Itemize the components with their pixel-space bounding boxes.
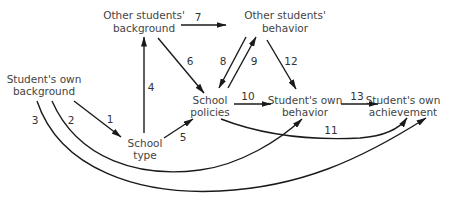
node-label-line1: Student's own bbox=[7, 73, 82, 85]
edge-6: 6 bbox=[158, 38, 204, 93]
edge-2-line bbox=[52, 101, 302, 172]
edge-11: 11 bbox=[221, 118, 407, 139]
node-label-line1: School bbox=[193, 94, 228, 106]
node-label-line2: background bbox=[13, 85, 75, 97]
edge-9-label: 9 bbox=[251, 55, 258, 67]
node-student-own-achievement: Student's own achievement bbox=[366, 94, 441, 118]
edge-12: 12 bbox=[267, 40, 298, 89]
edge-3-line bbox=[37, 101, 426, 191]
edge-7: 7 bbox=[181, 11, 226, 25]
edge-11-label: 11 bbox=[324, 124, 337, 136]
node-label-line2: achievement bbox=[369, 106, 437, 118]
node-label-line2: policies bbox=[190, 106, 230, 118]
edge-2: 2 bbox=[52, 101, 302, 172]
node-label-line2: type bbox=[133, 149, 156, 161]
node-other-students-behavior: Other students' behavior bbox=[244, 9, 326, 34]
edge-4-label: 4 bbox=[148, 81, 155, 93]
node-label-line2: background bbox=[113, 22, 175, 34]
edge-7-label: 7 bbox=[195, 11, 202, 23]
node-label-line1: Other students' bbox=[244, 9, 326, 21]
edge-5-line bbox=[164, 119, 193, 138]
edge-12-label: 12 bbox=[284, 55, 297, 67]
edge-6-line bbox=[158, 38, 204, 93]
node-label-line1: Other students' bbox=[103, 9, 185, 21]
edge-10: 10 bbox=[234, 90, 271, 104]
node-label-line1: School bbox=[128, 137, 163, 149]
edge-5-label: 5 bbox=[180, 131, 187, 143]
edge-13-label: 13 bbox=[350, 90, 363, 102]
edge-1: 1 bbox=[74, 101, 121, 137]
path-diagram: Other students' background Other student… bbox=[0, 0, 458, 205]
edge-4: 4 bbox=[144, 37, 155, 133]
edge-1-line bbox=[74, 101, 121, 137]
edge-5: 5 bbox=[164, 119, 193, 143]
edge-3-label: 3 bbox=[32, 114, 39, 126]
node-label-line1: Student's own bbox=[268, 94, 343, 106]
edge-11-line bbox=[221, 118, 407, 139]
edge-8-label: 8 bbox=[220, 55, 227, 67]
edge-10-label: 10 bbox=[241, 90, 254, 102]
edge-2-label: 2 bbox=[68, 114, 75, 126]
node-school-policies: School policies bbox=[190, 94, 230, 118]
node-other-students-background: Other students' background bbox=[103, 9, 185, 34]
node-school-type: School type bbox=[128, 137, 163, 161]
node-student-own-behavior: Student's own behavior bbox=[268, 94, 343, 118]
edge-6-label: 6 bbox=[187, 55, 194, 67]
edge-1-label: 1 bbox=[107, 113, 114, 125]
node-student-own-background: Student's own background bbox=[7, 73, 82, 97]
node-label-line2: behavior bbox=[282, 106, 329, 118]
node-label-line2: behavior bbox=[262, 22, 309, 34]
